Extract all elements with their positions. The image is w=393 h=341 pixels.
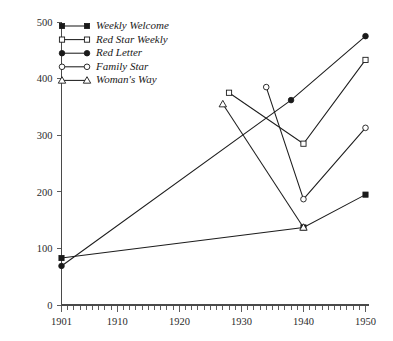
legend-marker-open-square-icon <box>59 37 64 42</box>
x-axis: 190119101920193019401950 <box>51 305 376 327</box>
data-point-open-triangle-icon <box>219 100 226 106</box>
data-point-open-square-icon <box>226 90 231 95</box>
y-tick-label: 300 <box>37 130 53 141</box>
y-axis: 0100200300400500 <box>37 17 62 311</box>
x-tick-label: 1910 <box>107 316 128 327</box>
legend-label: Woman's Way <box>96 73 157 85</box>
legend-item[interactable]: Family Star <box>59 60 149 72</box>
x-tick-label: 1920 <box>169 316 190 327</box>
line-chart-figure: 0100200300400500 19011910192019301940195… <box>0 0 393 341</box>
data-point-filled-circle-icon <box>288 97 294 103</box>
x-tick-label: 1940 <box>293 316 314 327</box>
legend-marker-open-circle-icon <box>59 64 65 70</box>
legend-marker-filled-square-icon <box>84 23 89 28</box>
legend-label: Family Star <box>95 60 149 72</box>
x-tick-label: 1901 <box>51 316 72 327</box>
legend-item[interactable]: Red Letter <box>59 46 143 58</box>
data-point-filled-circle-icon <box>59 263 65 269</box>
legend-marker-open-square-icon <box>84 37 89 42</box>
series-red-star-weekly <box>226 57 368 146</box>
legend-label: Red Star Weekly <box>95 33 168 45</box>
legend-marker-open-circle-icon <box>84 64 90 70</box>
x-tick-label: 1930 <box>231 316 252 327</box>
legend-label: Weekly Welcome <box>96 19 169 31</box>
y-tick-label: 400 <box>37 73 53 84</box>
chart-legend: Weekly WelcomeRed Star WeeklyRed LetterF… <box>58 19 169 85</box>
legend-item[interactable]: Weekly Welcome <box>59 19 169 31</box>
legend-item[interactable]: Woman's Way <box>58 73 156 85</box>
legend-label: Red Letter <box>95 46 143 58</box>
data-point-open-circle-icon <box>301 196 307 202</box>
series-line <box>223 104 304 227</box>
legend-marker-filled-circle-icon <box>84 50 90 56</box>
y-tick-label: 500 <box>37 17 53 28</box>
plot-area: 0100200300400500 19011910192019301940195… <box>0 0 393 341</box>
series-line <box>62 195 366 258</box>
data-point-filled-circle-icon <box>363 33 369 39</box>
legend-marker-filled-circle-icon <box>59 50 65 56</box>
data-point-filled-square-icon <box>363 192 368 197</box>
data-point-filled-square-icon <box>59 255 64 260</box>
data-point-open-circle-icon <box>363 125 369 131</box>
legend-item[interactable]: Red Star Weekly <box>59 33 167 45</box>
data-point-open-square-icon <box>363 57 368 62</box>
y-tick-label: 200 <box>37 187 53 198</box>
series-weekly-welcome <box>59 192 368 261</box>
x-tick-label: 1950 <box>355 316 376 327</box>
data-point-open-circle-icon <box>263 84 269 90</box>
series-line <box>229 60 365 144</box>
series-line <box>266 87 365 199</box>
y-tick-label: 100 <box>37 243 53 254</box>
series-family-star <box>263 84 368 202</box>
data-point-open-square-icon <box>301 141 306 146</box>
y-tick-label: 0 <box>47 300 52 311</box>
legend-marker-filled-square-icon <box>59 23 64 28</box>
